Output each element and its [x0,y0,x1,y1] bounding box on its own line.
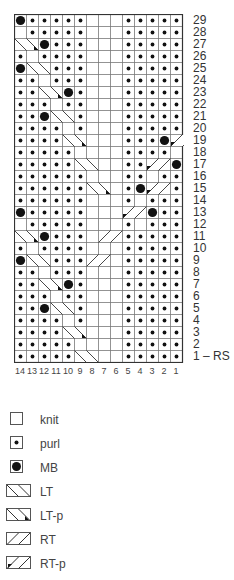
column-label: 6 [110,366,122,376]
column-label: 14 [14,366,26,376]
legend-label: MB [40,461,58,475]
purl-symbol-icon [10,436,24,450]
column-label: 12 [38,366,50,376]
column-label: 4 [134,366,146,376]
column-label: 13 [26,366,38,376]
legend-label: knit [40,413,59,427]
left-twist-purl-symbol-icon [6,508,32,522]
column-label: 8 [86,366,98,376]
left-twist-symbol-icon [6,484,32,498]
legend-item-purl: purl [10,434,210,454]
row-label: 1 – RS [193,350,230,362]
column-label: 1 [170,366,182,376]
column-label: 7 [98,366,110,376]
legend-item-mb: MB [10,458,210,478]
legend-item-lt: LT [10,482,210,502]
legend-item-rt-p: RT-p [10,554,210,574]
column-label: 9 [74,366,86,376]
legend-label: purl [40,437,60,451]
legend-label: LT [40,485,53,499]
right-twist-symbol-icon [6,532,32,546]
column-label: 3 [146,366,158,376]
knitting-chart-grid [14,14,184,363]
knit-symbol-icon [10,412,24,426]
column-label: 11 [50,366,62,376]
legend-item-rt: RT [10,530,210,550]
legend-label: RT-p [40,557,66,571]
right-twist-purl-symbol-icon [6,556,32,570]
column-label: 5 [122,366,134,376]
column-label: 2 [158,366,170,376]
legend-label: RT [40,533,56,547]
column-label: 10 [62,366,74,376]
legend-label: LT-p [40,509,63,523]
legend-item-lt-p: LT-p [10,506,210,526]
mb-symbol-icon [10,460,24,474]
legend-item-knit: knit [10,410,210,430]
